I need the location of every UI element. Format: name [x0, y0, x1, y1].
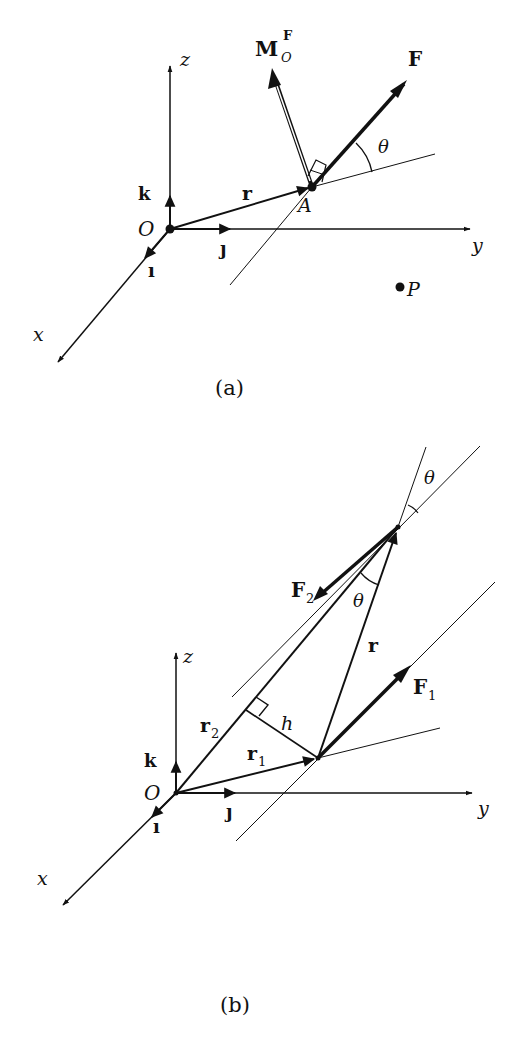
r1-tip-point — [316, 756, 321, 761]
force-label: F — [408, 47, 422, 71]
svg-text:1: 1 — [428, 688, 436, 703]
angle-theta-top-label: θ — [424, 467, 435, 488]
moment-superscript: F — [283, 28, 293, 43]
right-angle-mark-2 — [310, 170, 322, 174]
origin-point — [166, 225, 175, 234]
point-A-label: A — [296, 194, 312, 216]
x-axis-label: x — [33, 323, 44, 345]
x-axis-label: x — [37, 867, 48, 889]
origin-label: O — [144, 781, 160, 805]
position-vector-label: r — [242, 182, 253, 204]
force-F1 — [318, 671, 405, 758]
f1-label: F 1 — [413, 675, 436, 703]
caption-b: (b) — [220, 993, 250, 1017]
angle-arc-theta — [356, 143, 372, 172]
y-axis-label: y — [477, 797, 489, 819]
r1-label: r 1 — [247, 742, 266, 769]
right-angle-mark — [256, 697, 268, 716]
moment-vector-inner — [277, 86, 310, 181]
angle-arc-top — [408, 505, 418, 513]
moment-label: M — [255, 36, 278, 61]
svg-text:F: F — [413, 675, 427, 699]
unit-i-label: ı — [148, 260, 155, 281]
f2-line-of-action — [232, 446, 480, 697]
z-axis-label: z — [179, 48, 191, 70]
unit-j-label: ȷ — [224, 801, 233, 822]
origin-point — [174, 791, 179, 796]
figure-a: z y x k ȷ ı O A P r F M O F θ (a) — [33, 28, 483, 400]
r2-vector — [176, 527, 398, 793]
position-vector-r — [170, 188, 308, 229]
z-axis-label: z — [182, 645, 194, 667]
distance-h-label: h — [281, 712, 293, 734]
point-A — [308, 183, 317, 192]
y-axis-label: y — [471, 234, 483, 256]
apex-point — [396, 525, 401, 530]
angle-theta-label: θ — [378, 136, 389, 157]
r-extension-line — [312, 154, 435, 187]
point-P — [396, 283, 405, 292]
r1-vector — [176, 759, 314, 793]
unit-k-label: k — [138, 183, 151, 204]
unit-k-label: k — [144, 750, 157, 771]
r1-extension-line — [318, 728, 440, 758]
svg-text:2: 2 — [306, 591, 314, 606]
svg-text:F: F — [291, 578, 305, 602]
origin-label: O — [138, 217, 154, 241]
f2-label: F 2 — [291, 578, 314, 606]
angle-theta-inner-label: θ — [353, 590, 364, 611]
r-vector — [318, 533, 396, 758]
svg-text:r: r — [247, 742, 258, 764]
caption-a: (a) — [215, 376, 244, 400]
r-vector-label: r — [368, 634, 379, 656]
r2-label: r 2 — [200, 714, 219, 741]
svg-text:r: r — [200, 714, 211, 736]
unit-i-label: ı — [153, 816, 160, 837]
moment-subscript: O — [281, 50, 292, 65]
diagram-canvas: z y x k ȷ ı O A P r F M O F θ (a) — [0, 0, 513, 1045]
unit-j-label: ȷ — [218, 238, 227, 259]
svg-text:1: 1 — [258, 754, 266, 769]
figure-b: z y x k ȷ ı O r r 1 r 2 F 1 F 2 h θ θ (b… — [37, 446, 495, 1017]
point-P-label: P — [406, 278, 421, 300]
angle-arc-inner — [361, 573, 379, 585]
force-vector-F — [312, 84, 404, 187]
svg-text:2: 2 — [211, 726, 219, 741]
